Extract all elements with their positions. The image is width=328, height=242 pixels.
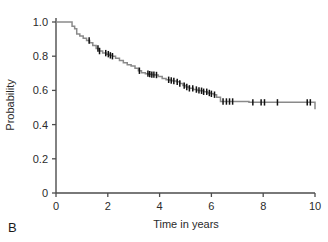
y-axis-title: Probability: [4, 79, 16, 131]
y-tick-label: 0: [42, 187, 48, 199]
y-tick-label: 0.8: [33, 50, 48, 62]
y-tick-label: 0.2: [33, 153, 48, 165]
x-tick-label: 0: [53, 200, 59, 212]
y-tick-label: 0.4: [33, 119, 48, 131]
figure-panel: 00.20.40.60.81.0 0246810 Time in years P…: [0, 0, 328, 242]
x-tick-label: 8: [260, 200, 266, 212]
x-axis-title: Time in years: [153, 218, 219, 230]
x-tick-label: 10: [309, 200, 321, 212]
chart-background: [0, 0, 328, 242]
y-tick-label: 1.0: [33, 16, 48, 28]
panel-label: B: [8, 220, 17, 235]
y-tick-label: 0.6: [33, 84, 48, 96]
x-tick-label: 4: [157, 200, 163, 212]
x-tick-label: 6: [208, 200, 214, 212]
kaplan-meier-chart: 00.20.40.60.81.0 0246810 Time in years P…: [0, 0, 328, 242]
x-tick-label: 2: [105, 200, 111, 212]
